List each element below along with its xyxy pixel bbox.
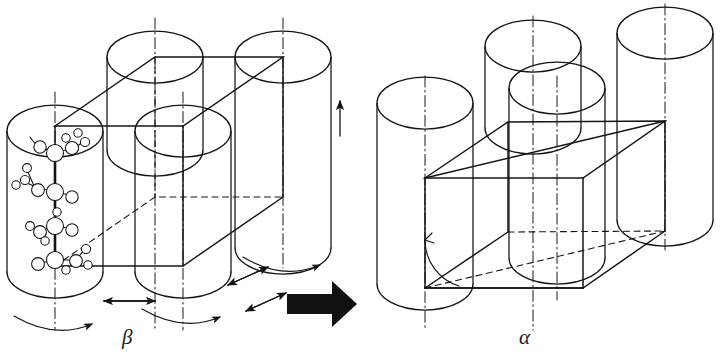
- phase-transition-figure: [0, 0, 721, 355]
- figure-background: [0, 0, 721, 355]
- alpha-phase-label: α: [519, 325, 530, 350]
- beta-phase-label: β: [122, 325, 132, 350]
